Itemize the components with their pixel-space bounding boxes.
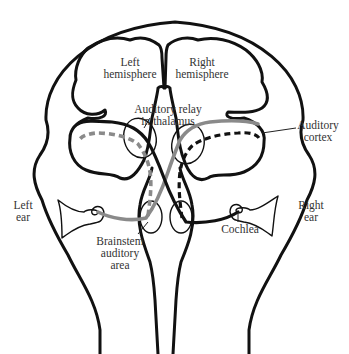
label-line: area: [95, 259, 145, 271]
label-line: ear: [8, 211, 38, 223]
label-auditory-cortex: Auditory cortex: [292, 119, 344, 143]
label-line: Left: [100, 56, 160, 68]
label-right-ear: Right ear: [295, 199, 327, 223]
label-line: hemisphere: [172, 68, 232, 80]
label-line: in thalamus: [128, 115, 208, 127]
label-line: Brainstem: [95, 235, 145, 247]
brainstem-right-outline: [173, 168, 193, 354]
label-right-hemisphere: Right hemisphere: [172, 56, 232, 80]
label-auditory-relay: Auditory relay in thalamus: [128, 103, 208, 127]
label-cochlea: Cochlea: [215, 223, 265, 235]
label-line: ear: [295, 211, 327, 223]
label-line: Cochlea: [215, 223, 265, 235]
label-line: hemisphere: [100, 68, 160, 80]
leader-cortex: [262, 128, 296, 133]
label-line: Auditory: [292, 119, 344, 131]
label-line: Right: [295, 199, 327, 211]
label-line: auditory: [95, 247, 145, 259]
label-left-hemisphere: Left hemisphere: [100, 56, 160, 80]
label-brainstem: Brainstem auditory area: [95, 235, 145, 271]
auditory-pathway-diagram: [0, 0, 349, 354]
label-line: Right: [172, 56, 232, 68]
left-ear: [58, 200, 104, 238]
label-line: Left: [8, 199, 38, 211]
label-line: cortex: [292, 131, 344, 143]
label-line: Auditory relay: [128, 103, 208, 115]
label-left-ear: Left ear: [8, 199, 38, 223]
